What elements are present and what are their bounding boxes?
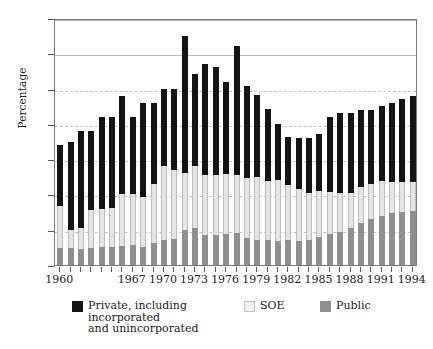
bar-1994: [410, 18, 416, 265]
bar-segment-public-1976: [223, 234, 229, 265]
x-tick-mark-1964: [101, 267, 102, 272]
x-tick-mark-1963: [90, 267, 91, 272]
bar-segment-private-1974: [202, 64, 208, 175]
bar-segment-private-1983: [296, 138, 302, 189]
bar-segment-private-1987: [337, 113, 343, 193]
bar-1990: [368, 18, 374, 265]
bar-segment-soe-1993: [399, 182, 405, 212]
bar-segment-public-1960: [57, 248, 63, 265]
bar-segment-public-1985: [316, 237, 322, 265]
bar-1964: [99, 18, 105, 265]
bar-segment-soe-1973: [192, 166, 198, 228]
bar-segment-public-1989: [358, 223, 364, 265]
bar-segment-private-1966: [119, 96, 125, 195]
bar-1979: [254, 18, 260, 265]
x-tick-mark-1967: [132, 267, 133, 272]
private-swatch-icon: [72, 301, 83, 312]
bar-segment-public-1984: [306, 240, 312, 265]
bar-segment-private-1968: [140, 103, 146, 198]
bar-1987: [337, 18, 343, 265]
bar-segment-soe-1987: [337, 193, 343, 232]
bar-segment-private-1981: [275, 124, 281, 180]
bar-segment-public-1974: [202, 235, 208, 265]
bar-segment-soe-1971: [171, 170, 177, 238]
bar-1993: [399, 18, 405, 265]
bar-segment-public-1981: [275, 241, 281, 265]
bar-segment-soe-1978: [244, 178, 250, 239]
x-tick-label-1960: 1960: [39, 274, 79, 285]
bar-segment-soe-1992: [389, 182, 395, 213]
bar-1985: [316, 18, 322, 265]
bar-segment-soe-1983: [296, 189, 302, 241]
bar-1975: [213, 18, 219, 265]
bar-segment-soe-1964: [99, 209, 105, 248]
bar-segment-soe-1963: [88, 210, 94, 248]
bar-segment-public-1994: [410, 211, 416, 265]
bar-segment-soe-1974: [202, 175, 208, 235]
bar-segment-public-1982: [285, 240, 291, 265]
bar-segment-soe-1962: [78, 228, 84, 248]
bar-segment-private-1982: [285, 137, 291, 186]
x-tick-mark-1983: [298, 267, 299, 272]
bar-1973: [192, 18, 198, 265]
x-tick-mark-1984: [308, 267, 309, 272]
bar-segment-private-1978: [244, 86, 250, 177]
bar-1976: [223, 18, 229, 265]
bar-segment-soe-1994: [410, 182, 416, 211]
x-tick-mark-1966: [121, 267, 122, 272]
bar-1972: [182, 18, 188, 265]
bar-segment-public-1978: [244, 238, 250, 265]
bar-segment-public-1991: [379, 216, 385, 265]
bar-segment-public-1992: [389, 213, 395, 265]
bar-segment-private-1973: [192, 74, 198, 165]
bar-segment-soe-1975: [213, 175, 219, 236]
bar-segment-private-1963: [88, 131, 94, 210]
bar-segment-public-1993: [399, 212, 405, 265]
bar-segment-soe-1986: [327, 192, 333, 234]
bar-segment-private-1967: [130, 117, 136, 195]
bar-segment-private-1979: [254, 95, 260, 177]
bar-segment-private-1990: [368, 110, 374, 184]
bar-segment-private-1989: [358, 110, 364, 188]
bar-1962: [78, 18, 84, 265]
bar-1982: [285, 18, 291, 265]
bar-1984: [306, 18, 312, 265]
bar-segment-soe-1988: [348, 193, 354, 228]
bar-segment-soe-1977: [234, 175, 240, 232]
x-tick-mark-1968: [142, 267, 143, 272]
bar-1980: [265, 18, 271, 265]
x-tick-mark-1972: [184, 267, 185, 272]
bar-segment-private-1985: [316, 134, 322, 190]
y-axis-title: Percentage: [16, 38, 28, 158]
bar-segment-soe-1967: [130, 194, 136, 245]
x-tick-mark-1977: [236, 267, 237, 272]
bar-1989: [358, 18, 364, 265]
x-tick-mark-1978: [246, 267, 247, 272]
x-tick-mark-1961: [70, 267, 71, 272]
bar-1968: [140, 18, 146, 265]
legend-label-private: Private, including incorporated and unin…: [88, 300, 198, 335]
x-tick-mark-1981: [277, 267, 278, 272]
bar-segment-soe-1990: [368, 184, 374, 219]
legend-item-public: Public: [320, 300, 371, 312]
x-tick-mark-1993: [401, 267, 402, 272]
bar-segment-public-1970: [161, 240, 167, 265]
bar-segment-soe-1966: [119, 194, 125, 246]
bar-segment-soe-1976: [223, 174, 229, 234]
legend-item-private: Private, including incorporated and unin…: [72, 300, 198, 335]
bar-segment-soe-1961: [68, 230, 74, 248]
x-tick-mark-1970: [163, 267, 164, 272]
bar-segment-private-1993: [399, 99, 405, 182]
bar-segment-soe-1991: [379, 181, 385, 216]
x-tick-mark-1974: [204, 267, 205, 272]
x-tick-mark-1965: [111, 267, 112, 272]
bar-segment-soe-1960: [57, 206, 63, 248]
bar-1991: [379, 18, 385, 265]
bar-segment-public-1965: [109, 247, 115, 265]
x-tick-mark-1989: [360, 267, 361, 272]
bar-1986: [327, 18, 333, 265]
x-tick-mark-1988: [350, 267, 351, 272]
y-tick-mark-0: [48, 266, 54, 267]
bar-1967: [130, 18, 136, 265]
bar-segment-public-1966: [119, 246, 125, 265]
